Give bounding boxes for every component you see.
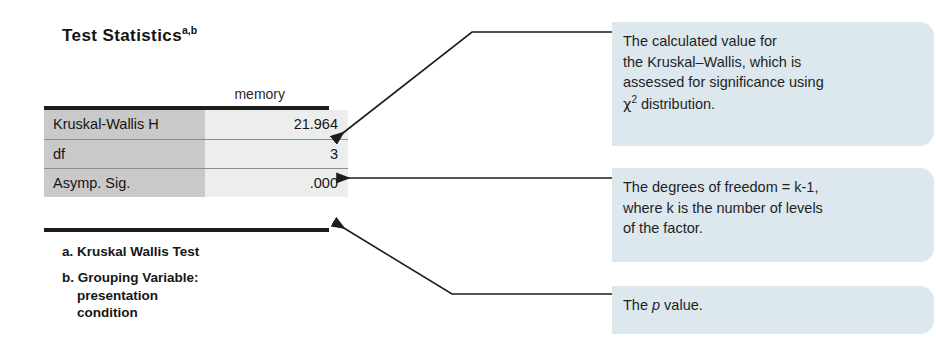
annotation-3-suffix: value. bbox=[660, 297, 703, 313]
footnote-b-line3: condition bbox=[62, 304, 322, 321]
row-label-df: df bbox=[44, 139, 205, 168]
row-value-asymp-sig: .000 bbox=[205, 168, 348, 197]
row-label-kruskal-wallis-h: Kruskal-Wallis H bbox=[44, 110, 205, 139]
annotation-1-line-1: The calculated value for bbox=[623, 31, 922, 52]
row-label-asymp-sig: Asymp. Sig. bbox=[44, 168, 205, 197]
table-footnotes: a. Kruskal Wallis Test b. Grouping Varia… bbox=[62, 243, 322, 330]
annotation-2-line-1: The degrees of freedom = k-1, bbox=[623, 177, 922, 198]
table-bottom-rule bbox=[44, 228, 329, 232]
footnote-a: a. Kruskal Wallis Test bbox=[62, 243, 322, 260]
footnote-a-text: Kruskal Wallis Test bbox=[77, 244, 199, 259]
annotation-2-line-2: where k is the number of levels bbox=[623, 198, 922, 219]
annotation-3-line-1: The p value. bbox=[623, 295, 922, 316]
test-statistics-table: Kruskal-Wallis H 21.964 df 3 Asymp. Sig.… bbox=[44, 110, 329, 197]
row-value-df: 3 bbox=[205, 139, 348, 168]
leader-line-p-value bbox=[334, 222, 612, 294]
footnote-b-line2: presentation bbox=[62, 287, 322, 304]
table-row: Kruskal-Wallis H 21.964 bbox=[44, 110, 348, 139]
annotation-1-line-4: χ2 distribution. bbox=[623, 93, 922, 114]
table-column-header-row: memory bbox=[44, 86, 329, 108]
annotation-3-italic-p: p bbox=[652, 297, 660, 313]
annotation-3-prefix: The bbox=[623, 297, 652, 313]
annotation-degrees-of-freedom: The degrees of freedom = k-1, where k is… bbox=[612, 168, 934, 262]
annotation-1-line-3: assessed for significance using bbox=[623, 72, 922, 93]
annotation-2-line-3: of the factor. bbox=[623, 218, 922, 239]
annotation-1-line-4-rest: distribution. bbox=[637, 96, 715, 112]
footnote-b: b. Grouping Variable: presentation condi… bbox=[62, 269, 322, 321]
column-header-memory: memory bbox=[234, 86, 285, 102]
footnote-b-marker: b. bbox=[62, 270, 74, 285]
table-title-superscript: a,b bbox=[182, 24, 197, 36]
footnote-b-text: Grouping Variable: bbox=[78, 270, 199, 285]
row-value-kruskal-wallis-h: 21.964 bbox=[205, 110, 348, 139]
footnote-a-marker: a. bbox=[62, 244, 73, 259]
leader-line-kruskal-wallis bbox=[334, 32, 612, 140]
table-row: Asymp. Sig. .000 bbox=[44, 168, 348, 197]
table-title-text: Test Statistics bbox=[62, 26, 182, 45]
annotation-p-value: The p value. bbox=[612, 286, 934, 334]
annotation-1-line-2: the Kruskal–Wallis, which is bbox=[623, 52, 922, 73]
table-title: Test Statisticsa,b bbox=[62, 24, 197, 46]
annotation-kruskal-wallis-statistic: The calculated value for the Kruskal–Wal… bbox=[612, 22, 934, 146]
spss-output-block: Test Statisticsa,b memory Kruskal-Wallis… bbox=[0, 0, 360, 364]
table-row: df 3 bbox=[44, 139, 348, 168]
